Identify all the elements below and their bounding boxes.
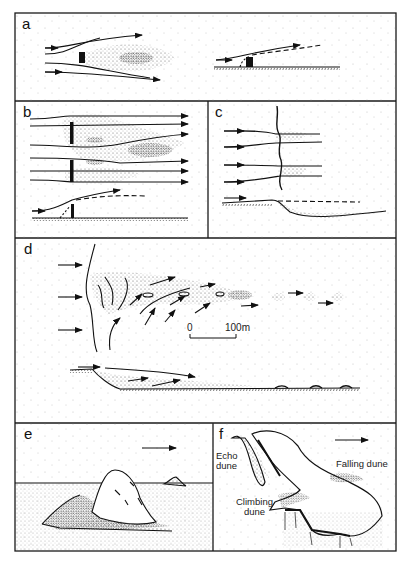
panel-label-e: e — [24, 425, 32, 442]
echo-dune-label-line2: dune — [216, 460, 237, 471]
climbing-dune-label: Climbing dune — [236, 497, 273, 517]
falling-dune-label: Falling dune — [336, 459, 388, 469]
scale-bar-end: 100m — [225, 323, 250, 333]
dune-diagram-figure — [0, 0, 415, 567]
climbing-dune-label-line2: dune — [244, 506, 265, 517]
scale-bar-start: 0 — [187, 323, 193, 333]
panel-label-b: b — [23, 103, 31, 120]
background-stipple — [16, 14, 395, 550]
panel-label-d: d — [24, 240, 32, 257]
echo-dune-label: Echo dune — [216, 451, 238, 471]
panel-label-f: f — [219, 425, 223, 442]
panel-label-a: a — [22, 15, 30, 32]
panel-label-c: c — [215, 103, 223, 120]
